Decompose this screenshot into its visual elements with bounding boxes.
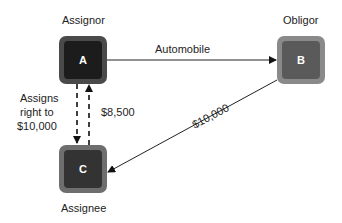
node-c: C [59, 145, 107, 193]
node-a: A [59, 36, 107, 84]
payment-8500-label: $8,500 [101, 106, 135, 118]
node-c-letter: C [64, 150, 102, 188]
assigns-line-2: right to [20, 106, 54, 118]
automobile-label: Automobile [155, 43, 210, 55]
obligor-label: Obligor [283, 14, 318, 26]
assigns-line-3: $10,000 [17, 120, 57, 132]
assigns-line-1: Assigns [20, 92, 59, 104]
node-b: B [277, 36, 325, 84]
assignor-label: Assignor [62, 14, 105, 26]
assignee-label: Assignee [61, 202, 106, 214]
node-a-letter: A [64, 41, 102, 79]
node-b-letter: B [282, 41, 320, 79]
